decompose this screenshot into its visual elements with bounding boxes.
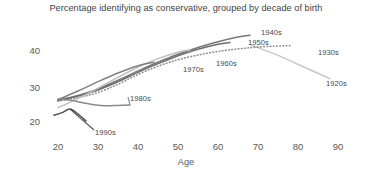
series-line-1950s (58, 42, 230, 100)
series-label-1980s: 1980s (130, 94, 151, 103)
series-label-1930s: 1930s (318, 48, 339, 57)
series-label-1950s: 1950s (248, 38, 269, 47)
plot-area (0, 0, 372, 178)
series-lines (54, 35, 330, 121)
series-label-1920s: 1920s (326, 79, 347, 88)
leader-line (70, 109, 94, 130)
chart-container: Percentage identifying as conservative, … (0, 0, 372, 178)
series-label-1940s: 1940s (261, 28, 282, 37)
series-label-1970s: 1970s (183, 65, 204, 74)
series-label-1960s: 1960s (216, 59, 237, 68)
series-label-1990s: 1990s (95, 128, 116, 137)
